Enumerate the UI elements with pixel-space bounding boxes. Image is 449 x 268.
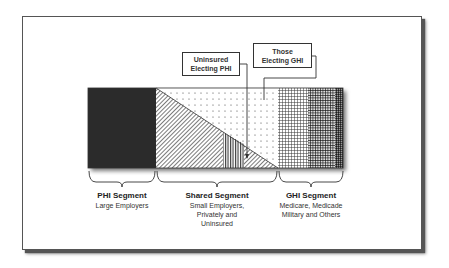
- segment-title: GHI Segment: [264, 191, 358, 201]
- segment-desc: Uninsured: [172, 219, 262, 228]
- phi-segment-block: [88, 88, 156, 168]
- ghi-segment-dark-grid: [335, 88, 343, 168]
- shared-segment-label: Shared Segment Small Employers, Privatel…: [172, 191, 262, 228]
- callout-uninsured-electing-phi: Uninsured Electing PHI: [182, 52, 240, 76]
- segment-title: PHI Segment: [77, 191, 167, 201]
- segment-desc: Medicare, Medicade: [264, 201, 358, 210]
- ghi-segment-medium-grid: [308, 88, 335, 168]
- segment-title: Shared Segment: [172, 191, 262, 201]
- callout-line: Electing GHI: [262, 56, 304, 65]
- callout-line: Uninsured: [191, 55, 232, 64]
- segment-desc: Large Employers: [77, 201, 167, 210]
- phi-segment-brace: [89, 171, 155, 187]
- ghi-segment-brace: [279, 171, 343, 187]
- ghi-segment-light-grid: [278, 88, 308, 168]
- segment-desc: Privately and: [172, 210, 262, 219]
- segment-desc: Small Employers,: [172, 201, 262, 210]
- callout-line: Those: [262, 47, 304, 56]
- callout-line: Electing PHI: [191, 64, 232, 73]
- phi-segment-label: PHI Segment Large Employers: [77, 191, 167, 210]
- shared-segment-brace: [157, 171, 277, 187]
- callout-those-electing-ghi: Those Electing GHI: [253, 43, 312, 68]
- segment-desc: Military and Others: [264, 210, 358, 219]
- ghi-segment-label: GHI Segment Medicare, Medicade Military …: [264, 191, 358, 219]
